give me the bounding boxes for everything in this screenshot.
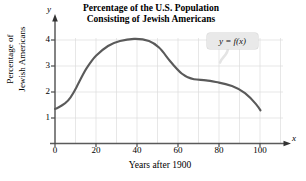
x-tick-label-40: 40 bbox=[127, 145, 147, 155]
y-axis-line bbox=[52, 14, 58, 144]
y-tick-label-2: 2 bbox=[38, 86, 50, 96]
chart-figure: Percentage of the U.S. Population Consis… bbox=[0, 0, 306, 181]
x-tick-label-0: 0 bbox=[45, 145, 65, 155]
grid-horizontal bbox=[55, 40, 283, 118]
y-tick-label-3: 3 bbox=[38, 60, 50, 70]
x-tick-label-80: 80 bbox=[209, 145, 229, 155]
x-tick-label-60: 60 bbox=[168, 145, 188, 155]
y-tick-label-4: 4 bbox=[38, 34, 50, 44]
grid-vertical bbox=[76, 38, 281, 143]
x-tick-label-100: 100 bbox=[250, 145, 270, 155]
x-tick-label-20: 20 bbox=[86, 145, 106, 155]
y-tick-label-1: 1 bbox=[38, 112, 50, 122]
function-callout: y = f(x) bbox=[207, 33, 258, 49]
function-callout-label: y = f(x) bbox=[207, 33, 258, 49]
